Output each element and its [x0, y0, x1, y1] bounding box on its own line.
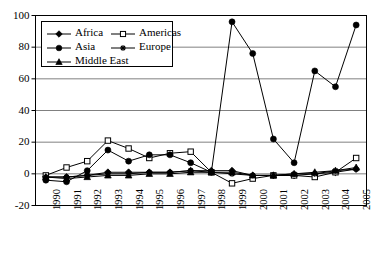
y-tick-label: 60: [19, 73, 30, 84]
data-point-marker: [291, 160, 297, 166]
legend-item-europe[interactable]: Europe: [110, 39, 171, 53]
x-tick-label: 2002: [299, 189, 310, 210]
x-tick-label: 1998: [216, 189, 227, 210]
y-tick-label: -20: [15, 200, 30, 211]
data-point-marker: [353, 22, 359, 28]
x-tick-label: 2000: [258, 189, 269, 210]
data-point-marker: [188, 149, 193, 154]
data-point-marker: [56, 45, 62, 51]
line-chart: 100806040200-20 199019911992199319941995…: [0, 0, 374, 253]
x-tick-label: 2004: [340, 189, 351, 210]
data-point-marker: [188, 160, 194, 166]
x-tick-label: 1995: [154, 189, 165, 210]
y-tick-label: 100: [13, 10, 30, 21]
data-point-marker: [312, 68, 318, 74]
y-tick-label: 40: [19, 105, 30, 116]
data-point-marker: [105, 138, 110, 143]
legend-item-americas[interactable]: Americas: [110, 25, 181, 39]
data-point-marker: [105, 147, 111, 153]
legend-item-middle-east[interactable]: Middle East: [46, 53, 128, 67]
x-tick-label: 1999: [237, 189, 248, 210]
data-point-marker: [353, 155, 358, 160]
filled-diamond-icon: [46, 26, 72, 38]
asterisk-icon: [110, 40, 136, 52]
open-square-icon: [110, 26, 136, 38]
x-tick-label: 1996: [175, 189, 186, 210]
legend-label: Asia: [75, 40, 95, 52]
data-point-marker: [332, 84, 338, 90]
x-tick-label: 1994: [134, 189, 145, 210]
chart-legend: AfricaAmericasAsiaEuropeMiddle East: [41, 21, 173, 67]
x-tick-label: 2003: [320, 189, 331, 210]
y-tick-label: 20: [19, 136, 30, 147]
y-tick-label: 80: [19, 41, 30, 52]
legend-label: Middle East: [75, 54, 128, 66]
x-tick-label: 2005: [361, 189, 372, 210]
x-tick-label: 1990: [51, 189, 62, 210]
y-tick-label: 0: [24, 168, 30, 179]
x-tick-label: 1991: [72, 189, 83, 210]
legend-label: Americas: [139, 26, 181, 38]
data-point-marker: [64, 165, 69, 170]
x-tick-label: 2001: [278, 189, 289, 210]
data-point-marker: [120, 45, 126, 51]
x-tick-label: 1992: [92, 189, 103, 210]
legend-item-asia[interactable]: Asia: [46, 39, 95, 53]
data-point-marker: [250, 51, 256, 57]
data-point-marker: [270, 136, 276, 142]
legend-label: Europe: [139, 40, 171, 52]
data-point-marker: [146, 152, 152, 158]
data-point-marker: [56, 31, 62, 37]
data-point-marker: [120, 31, 125, 36]
data-point-marker: [167, 152, 173, 158]
data-point-marker: [229, 19, 235, 25]
data-point-marker: [126, 146, 131, 151]
filled-triangle-icon: [46, 54, 72, 66]
data-point-marker: [85, 158, 90, 163]
filled-circle-icon: [46, 40, 72, 52]
x-tick-label: 1997: [196, 189, 207, 210]
data-point-marker: [126, 158, 132, 164]
data-point-marker: [229, 181, 234, 186]
legend-label: Africa: [75, 26, 103, 38]
legend-item-africa[interactable]: Africa: [46, 25, 103, 39]
x-tick-label: 1993: [113, 189, 124, 210]
